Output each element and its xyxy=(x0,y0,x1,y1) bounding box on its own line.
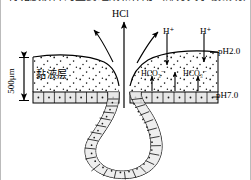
label-h-ion-right: H⁺ xyxy=(200,26,211,36)
hcl-diffusion-arrow-left xyxy=(94,30,113,62)
figure-canvas: 胃黏膜屏障的主要组成和作用（部分文字被裁切） xyxy=(0,0,251,180)
label-bicarbonate-left: HCO₃⁻ xyxy=(141,69,165,78)
epithelium-row-left xyxy=(33,92,119,103)
label-ph-lumen: pH2.0 xyxy=(218,46,240,56)
label-h-ion-left: H⁺ xyxy=(163,26,174,36)
label-bicarbonate-right: HCO₃⁻ xyxy=(183,69,207,78)
label-mucus-layer: 黏液层 xyxy=(36,66,68,81)
label-ph-epithelium: pH7.0 xyxy=(216,90,238,100)
scale-bar xyxy=(19,58,29,101)
label-hcl: HCl xyxy=(112,8,129,19)
gastric-mucosa-diagram xyxy=(0,0,251,180)
label-scale-bar: 500μm xyxy=(6,58,16,104)
